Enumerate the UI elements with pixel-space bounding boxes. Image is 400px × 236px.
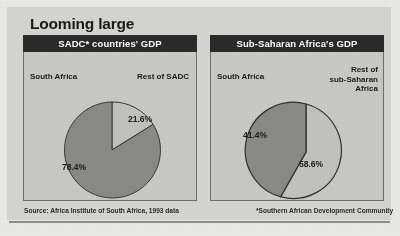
pie-chart-subsaharan: South Africa Rest of sub-Saharan Africa … bbox=[211, 52, 383, 200]
pie-label-rest-of-sadc: Rest of SADC bbox=[137, 72, 189, 82]
pie-label-rest-of-subsaharan-africa: Rest of sub-Saharan Africa bbox=[330, 65, 378, 94]
source-note: Source: Africa Institute of South Africa… bbox=[24, 207, 179, 214]
chart-panel-sadc-body: South Africa Rest of SADC 21.6% 78.4% bbox=[24, 52, 196, 200]
chart-panel-subsaharan-body: South Africa Rest of sub-Saharan Africa … bbox=[211, 52, 383, 200]
chart-panel-subsaharan-header: Sub-Saharan Africa's GDP bbox=[210, 35, 384, 52]
pie-value-south-africa: 41.4% bbox=[243, 130, 267, 140]
chart-panel-sadc-header: SADC* countries' GDP bbox=[23, 35, 197, 52]
chart-panel-subsaharan: Sub-Saharan Africa's GDP South Africa Re… bbox=[210, 35, 384, 201]
scanned-page: Looming large SADC* countries' GDP South… bbox=[0, 0, 400, 236]
pie-value-south-africa: 78.4% bbox=[62, 162, 86, 172]
page-edge-left bbox=[0, 0, 7, 236]
graphic-title: Looming large bbox=[30, 15, 134, 33]
chart-panel-sadc: SADC* countries' GDP South Africa Rest o… bbox=[23, 35, 197, 201]
pie-label-south-africa: South Africa bbox=[30, 72, 77, 82]
sadc-footnote: *Southern African Development Community bbox=[256, 207, 393, 214]
pie-value-rest-of-sadc: 21.6% bbox=[128, 114, 152, 124]
page-edge-right bbox=[391, 0, 400, 236]
pie-chart-sadc: South Africa Rest of SADC 21.6% 78.4% bbox=[24, 52, 196, 200]
infographic-card: Looming large SADC* countries' GDP South… bbox=[7, 7, 391, 220]
page-edge-top bbox=[0, 0, 400, 7]
pie-label-south-africa: South Africa bbox=[217, 72, 264, 82]
bottom-rule bbox=[9, 221, 390, 223]
pie-value-rest-of-subsaharan-africa: 58.6% bbox=[299, 159, 323, 169]
